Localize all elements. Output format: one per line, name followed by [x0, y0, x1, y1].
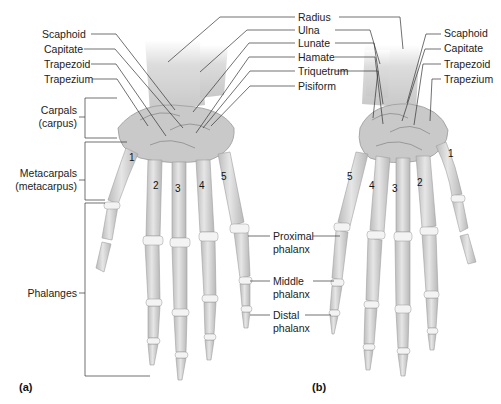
label-carpals-line2: (carpus) — [38, 117, 77, 130]
metacarpal-number-b-5: 5 — [347, 171, 353, 182]
hand-a — [96, 40, 252, 380]
label-middle-line1: Middle — [273, 275, 310, 288]
label-hamate: Hamate — [298, 51, 335, 63]
label-carpals-line1: Carpals — [38, 104, 77, 117]
label-trapezium-b: Trapezium — [444, 73, 493, 85]
metacarpal-number-a-3: 3 — [175, 183, 181, 194]
label-ulna: Ulna — [298, 24, 320, 36]
label-lunate: Lunate — [298, 37, 330, 49]
metacarpal-number-a-5: 5 — [221, 171, 227, 182]
label-proximal-phalanx: Proximal phalanx — [273, 230, 314, 256]
label-distal-line1: Distal — [273, 309, 310, 322]
label-radius: Radius — [298, 11, 331, 23]
panel-label-b: (b) — [312, 381, 326, 393]
label-middle-phalanx: Middle phalanx — [273, 275, 310, 301]
label-trapezoid-b: Trapezoid — [444, 58, 490, 70]
metacarpal-number-b-4: 4 — [369, 180, 375, 191]
metacarpal-number-b-2: 2 — [417, 177, 423, 188]
metacarpal-number-b-1: 1 — [448, 148, 454, 159]
label-metacarpals-line1: Metacarpals — [15, 167, 77, 180]
label-triquetrum: Triquetrum — [298, 65, 348, 77]
label-middle-line2: phalanx — [273, 288, 310, 301]
label-scaphoid-b: Scaphoid — [444, 27, 488, 39]
label-phalanges: Phalanges — [27, 287, 77, 300]
label-carpals: Carpals (carpus) — [38, 104, 77, 130]
label-capitate-a: Capitate — [44, 43, 83, 55]
label-distal-phalanx: Distal phalanx — [273, 309, 310, 335]
metacarpal-number-a-2: 2 — [153, 180, 159, 191]
label-capitate-b: Capitate — [444, 42, 483, 54]
label-proximal-line2: phalanx — [273, 243, 314, 256]
label-phalanges-line1: Phalanges — [27, 287, 77, 300]
metacarpal-number-b-3: 3 — [392, 183, 398, 194]
label-scaphoid-a: Scaphoid — [42, 28, 86, 40]
label-metacarpals: Metacarpals (metacarpus) — [15, 167, 77, 193]
label-trapezium-a: Trapezium — [44, 73, 93, 85]
label-trapezoid-a: Trapezoid — [44, 58, 90, 70]
panel-label-a: (a) — [19, 381, 32, 393]
metacarpal-number-a-1: 1 — [129, 152, 135, 163]
label-distal-line2: phalanx — [273, 322, 310, 335]
hand-b — [329, 45, 476, 376]
metacarpal-number-a-4: 4 — [199, 180, 205, 191]
label-pisiform: Pisiform — [298, 80, 336, 92]
label-metacarpals-line2: (metacarpus) — [15, 180, 77, 193]
label-proximal-line1: Proximal — [273, 230, 314, 243]
